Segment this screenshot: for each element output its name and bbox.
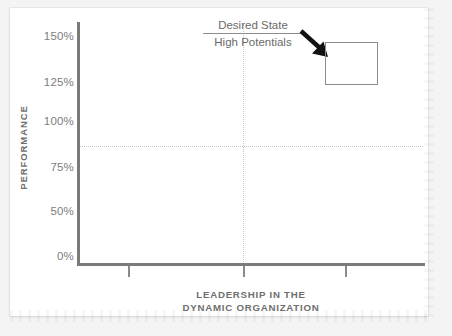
x-tick-mark-1 bbox=[128, 266, 130, 277]
callout-line-2: High Potentials bbox=[203, 35, 303, 50]
x-tick-mark-2 bbox=[243, 266, 245, 277]
desired-state-callout: Desired State High Potentials bbox=[203, 18, 303, 49]
callout-line-1: Desired State bbox=[203, 18, 303, 33]
horizontal-reference-line bbox=[79, 146, 423, 147]
desired-state-box bbox=[325, 42, 378, 85]
performance-leadership-quadrant-chart: 150% 125% 100% 75% 50% 0% PERFORMANCE LE… bbox=[0, 0, 452, 336]
x-axis-title-line2: DYNAMIC ORGANIZATION bbox=[77, 301, 425, 314]
y-axis-title: PERFORMANCE bbox=[18, 88, 29, 208]
x-tick-mark-3 bbox=[345, 266, 347, 277]
vertical-reference-line bbox=[243, 24, 244, 274]
y-tick-label-0: 0% bbox=[12, 251, 74, 263]
x-axis-title-line1: LEADERSHIP IN THE bbox=[77, 288, 425, 301]
y-tick-label-150: 150% bbox=[12, 31, 74, 43]
y-tick-label-50: 50% bbox=[12, 206, 74, 218]
y-axis-line bbox=[77, 22, 80, 266]
chart-page: 150% 125% 100% 75% 50% 0% PERFORMANCE LE… bbox=[0, 0, 452, 336]
x-axis-title: LEADERSHIP IN THE DYNAMIC ORGANIZATION bbox=[77, 288, 425, 314]
